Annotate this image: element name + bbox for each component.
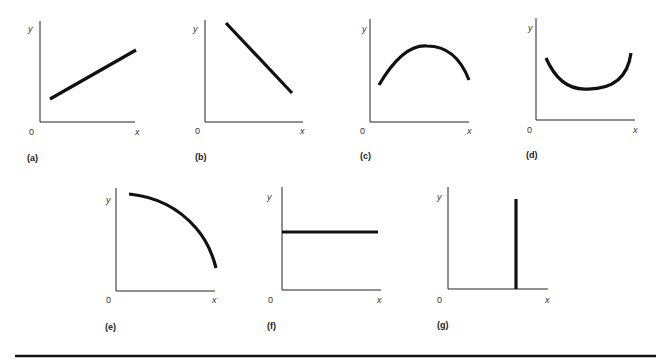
x-axis-label: x	[544, 295, 550, 305]
y-axis-label: y	[27, 24, 33, 34]
minimum-curve	[546, 53, 631, 89]
panel-a: y 0 x (a)	[27, 21, 140, 163]
panel-g: y 0 x (g)	[436, 187, 550, 330]
panel-d: y 0 x (d)	[526, 18, 638, 160]
panel-caption: (d)	[526, 150, 538, 160]
panel-c: y 0 x (c)	[360, 19, 472, 161]
axes	[205, 20, 303, 122]
origin-label: 0	[29, 127, 34, 137]
origin-label: 0	[527, 125, 532, 135]
y-axis-label: y	[266, 192, 272, 202]
y-axis-label: y	[192, 24, 198, 34]
origin-label: 0	[360, 126, 365, 136]
decreasing-concave-curve	[129, 194, 216, 268]
x-axis-label: x	[632, 125, 638, 135]
panel-caption: (e)	[105, 322, 116, 332]
x-axis-label: x	[466, 126, 472, 136]
positive-slope-line	[50, 50, 136, 99]
x-axis-label: x	[211, 295, 217, 305]
x-axis-label: x	[299, 126, 305, 136]
axes	[370, 19, 469, 122]
negative-slope-line	[226, 23, 292, 93]
axes	[282, 187, 381, 290]
origin-label: 0	[106, 295, 111, 305]
y-axis-label: y	[361, 24, 367, 34]
y-axis-label: y	[105, 195, 111, 205]
panel-caption: (c)	[360, 151, 371, 161]
origin-label: 0	[195, 126, 200, 136]
x-axis-label: x	[376, 295, 382, 305]
panel-f: y 0 x (f)	[266, 187, 382, 331]
slope-diagram-figure: y 0 x (a) y 0 x (b) y 0 x (c) y 0 x (d) …	[0, 0, 666, 359]
axes	[448, 187, 548, 289]
origin-label: 0	[268, 295, 273, 305]
maximum-curve	[379, 46, 469, 85]
panel-caption: (b)	[195, 152, 207, 162]
axes	[40, 21, 135, 122]
x-axis-label: x	[134, 127, 140, 137]
panel-caption: (a)	[27, 153, 38, 163]
panel-caption: (f)	[267, 321, 276, 331]
panel-b: y 0 x (b)	[192, 20, 305, 162]
panel-e: y 0 x (e)	[105, 188, 217, 332]
panel-caption: (g)	[437, 320, 449, 330]
y-axis-label: y	[436, 192, 442, 202]
origin-label: 0	[437, 295, 442, 305]
y-axis-label: y	[527, 23, 533, 33]
